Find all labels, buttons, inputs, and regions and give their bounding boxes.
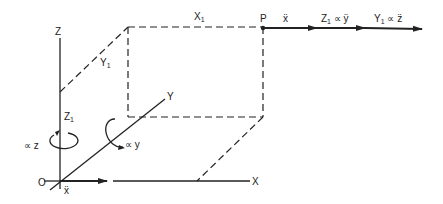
dash-z-to-top (60, 27, 128, 92)
dash-diagonal (197, 117, 263, 181)
rotation-about-z-icon (50, 130, 78, 149)
rotation-z-label: ∝ z (24, 140, 39, 151)
x1-label: X1 (194, 11, 205, 23)
y1-label: Y1 (100, 57, 111, 69)
diagram-canvas: Z Y X O P X1 Y1 Z1 ẍ ẍ Z1 ∝ ÿ Y1 ∝ z̈ ∝ … (0, 0, 443, 204)
origin-label: O (38, 177, 46, 188)
z-axis-label: Z (55, 26, 61, 37)
rotation-y-label: ∝ y (125, 139, 140, 150)
rotation-about-y-icon (106, 119, 125, 150)
accel-label-origin: ẍ (64, 185, 69, 196)
y-axis-label: Y (167, 91, 174, 102)
accel-label-p: ẍ (283, 13, 288, 24)
point-p-label: P (260, 13, 267, 24)
z1-vector-label: Z1 ∝ ÿ (321, 13, 349, 25)
x-axis-label: X (252, 176, 259, 187)
vector-y1 (365, 28, 422, 29)
z1-label: Z1 (64, 111, 74, 123)
y1-vector-label: Y1 ∝ z̈ (374, 13, 402, 25)
